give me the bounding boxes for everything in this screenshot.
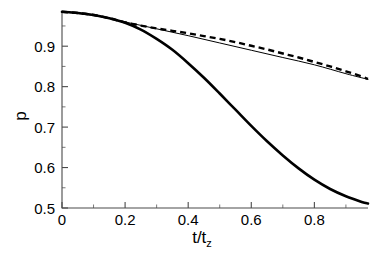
series-curve-dashed <box>62 12 368 79</box>
x-tick-label: 0.4 <box>178 211 199 228</box>
plot-frame <box>62 11 368 208</box>
x-axis-title-main: t/t <box>192 228 206 247</box>
y-tick-label: 0.6 <box>34 159 55 176</box>
x-axis-title-subscript: z <box>206 237 212 249</box>
x-axis-title: t/tz <box>192 228 212 249</box>
y-axis-title: p <box>11 111 30 120</box>
y-tick-label: 0.5 <box>34 200 55 217</box>
series-curve-thin-solid <box>62 12 368 80</box>
x-tick-label: 0.2 <box>115 211 136 228</box>
x-tick-label: 0 <box>58 211 66 228</box>
x-tick-label: 0.6 <box>241 211 262 228</box>
x-tick-label: 0.8 <box>304 211 325 228</box>
y-tick-label: 0.9 <box>34 38 55 55</box>
series-curve-thick-solid <box>62 12 368 204</box>
data-series-group <box>62 12 368 204</box>
axis-ticks <box>62 26 346 208</box>
figure-container: 00.20.40.60.80.50.60.70.80.9 p t/tz <box>0 0 386 262</box>
axis-tick-labels: 00.20.40.60.80.50.60.70.80.9 <box>34 38 325 228</box>
y-tick-label: 0.7 <box>34 119 55 136</box>
y-tick-label: 0.8 <box>34 78 55 95</box>
chart-plot: 00.20.40.60.80.50.60.70.80.9 p t/tz <box>0 0 386 262</box>
